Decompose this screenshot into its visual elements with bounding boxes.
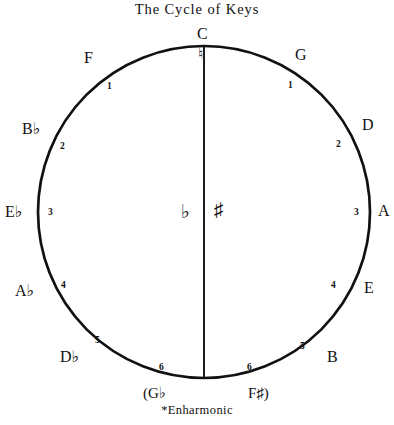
natural-marker-icon: ♮ <box>198 47 203 62</box>
key-count-a: 3 <box>354 208 359 218</box>
sharp-symbol-icon: ♯ <box>214 200 224 219</box>
key-label-a-flat: A♭ <box>15 283 34 299</box>
enharmonic-footnote: *Enharmonic <box>0 403 394 418</box>
key-label-c: C <box>197 26 208 42</box>
key-label-g-flat: (G♭ <box>143 386 166 401</box>
key-label-d-flat: D♭ <box>60 349 79 365</box>
key-count-g-flat: 6 <box>159 363 164 373</box>
key-label-f: F <box>84 50 93 66</box>
key-label-g: G <box>295 47 307 63</box>
key-count-g: 1 <box>288 81 293 91</box>
key-count-d: 2 <box>336 140 341 150</box>
key-count-f-sharp: 6 <box>247 363 252 373</box>
key-label-f-sharp: F♯) <box>248 386 269 401</box>
key-count-b-flat: 2 <box>60 142 65 152</box>
key-label-d: D <box>362 117 374 133</box>
key-count-a-flat: 4 <box>61 281 66 291</box>
key-label-e: E <box>364 280 374 296</box>
key-count-d-flat: 5 <box>95 336 100 346</box>
key-count-b: 5 <box>300 342 305 352</box>
flat-symbol-icon: ♭ <box>181 202 190 221</box>
key-label-a: A <box>378 203 390 219</box>
cycle-of-keys-diagram: The Cycle of Keys ♮ ♭ ♯ C G 1 D 2 A 3 E … <box>0 0 394 425</box>
key-count-e: 4 <box>331 281 336 291</box>
key-label-b-flat: B♭ <box>22 121 40 137</box>
key-count-f: 1 <box>107 82 112 92</box>
key-label-b: B <box>327 349 338 365</box>
key-count-e-flat: 3 <box>48 208 53 218</box>
key-label-e-flat: E♭ <box>5 204 22 220</box>
